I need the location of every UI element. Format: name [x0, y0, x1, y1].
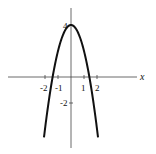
y-tick-label: 4: [63, 21, 68, 31]
x-axis-label: x: [139, 71, 145, 82]
x-tick-label: -1: [55, 83, 63, 93]
chart: x -2 -1 1 2 4 -2: [0, 0, 156, 154]
x-tick-label: 2: [95, 83, 100, 93]
x-tick-label: -2: [40, 83, 48, 93]
x-tick-label: 1: [81, 83, 86, 93]
y-tick-label: -2: [60, 98, 68, 108]
